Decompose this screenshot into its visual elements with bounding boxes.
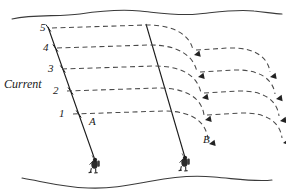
- flow-5-tail-arrowhead: [269, 73, 276, 80]
- diver-part: [183, 156, 187, 160]
- flow-5-tail-path: [196, 48, 270, 72]
- flow-2-path: [67, 88, 204, 115]
- flow-3-arrowhead: [201, 94, 208, 101]
- diver-part: [182, 153, 183, 156]
- flow-4-path: [57, 45, 197, 72]
- diver-part: [97, 161, 100, 167]
- depth-label-1: 1: [59, 108, 65, 119]
- line-b-label: B: [203, 134, 210, 145]
- flow-2-tail-path: [207, 113, 282, 138]
- depth-label-2: 2: [53, 85, 59, 96]
- diver-figures: [89, 153, 190, 173]
- depth-label-5: 5: [40, 22, 46, 33]
- flow-2-tail-arrowhead: [282, 139, 286, 146]
- depth-tick: [46, 25, 51, 32]
- flow-4-tail-path: [200, 70, 275, 94]
- flow-5-arrowhead: [193, 51, 200, 59]
- flow-5-path: [52, 25, 193, 50]
- seabed-line: [22, 176, 272, 188]
- diver-part: [93, 158, 97, 162]
- current-label: Current: [4, 78, 42, 90]
- diver-b: [179, 153, 190, 171]
- flow-3-tail-path: [204, 91, 279, 116]
- flow-3-tail-arrowhead: [279, 117, 286, 124]
- current-flow-lines: [52, 25, 286, 147]
- flow-4-tail-arrowhead: [275, 95, 282, 102]
- flow-4-arrowhead: [197, 73, 204, 80]
- flow-2-arrowhead: [204, 116, 211, 123]
- depth-label-4: 4: [43, 42, 49, 53]
- diver-part: [187, 159, 190, 165]
- flow-3-path: [62, 66, 201, 93]
- dive-search-diagram: Current A B 54321: [0, 0, 286, 196]
- diver-a: [89, 155, 100, 173]
- line-a-label: A: [89, 116, 96, 127]
- water-surface-line: [12, 10, 282, 19]
- depth-label-3: 3: [48, 63, 54, 74]
